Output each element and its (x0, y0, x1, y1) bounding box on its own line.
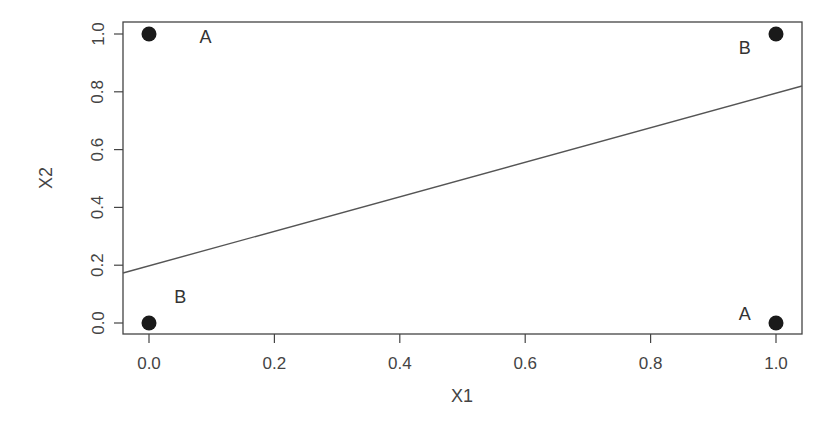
x-tick-label: 0.8 (639, 354, 663, 373)
data-point (142, 27, 157, 42)
data-point (769, 316, 784, 331)
x-tick-label: 1.0 (764, 354, 788, 373)
x-tick-label: 0.0 (137, 354, 161, 373)
y-axis: 0.00.20.40.60.81.0 (89, 22, 124, 335)
x-tick-label: 0.6 (513, 354, 537, 373)
point-label: A (739, 304, 751, 324)
plot-frame (123, 22, 802, 334)
x-tick-label: 0.2 (263, 354, 287, 373)
point-label: B (739, 38, 751, 58)
y-axis-title: X2 (36, 167, 56, 189)
y-tick-label: 0.6 (89, 138, 108, 162)
data-point (769, 27, 784, 42)
y-tick-label: 0.4 (89, 196, 108, 220)
data-point (142, 316, 157, 331)
y-tick-label: 0.8 (89, 80, 108, 104)
y-tick-label: 0.2 (89, 253, 108, 277)
y-tick-label: 1.0 (89, 22, 108, 46)
x-axis: 0.00.20.40.60.81.0 (137, 334, 788, 373)
data-points (142, 27, 784, 331)
y-tick-label: 0.0 (89, 311, 108, 335)
point-labels: ABBA (174, 27, 750, 324)
decision-boundary-line (123, 86, 802, 273)
point-label: A (199, 27, 211, 47)
point-label: B (174, 287, 186, 307)
x-tick-label: 0.4 (388, 354, 412, 373)
x-axis-title: X1 (451, 386, 473, 406)
scatter-chart: 0.00.20.40.60.81.0 0.00.20.40.60.81.0 X1… (0, 0, 837, 428)
